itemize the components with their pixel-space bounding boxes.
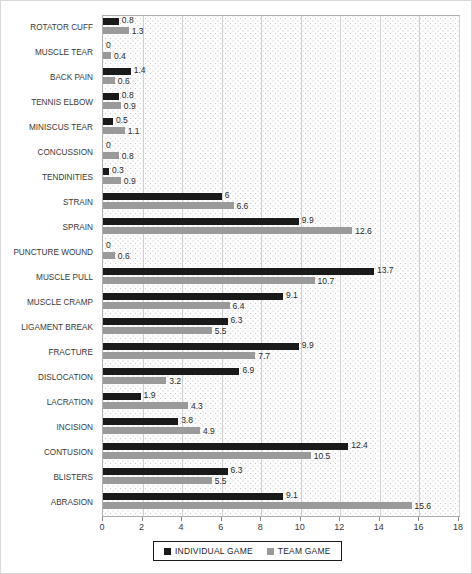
y-axis-label: CONCUSSION <box>1 148 93 157</box>
bar-value-label: 0 <box>106 41 111 50</box>
y-axis-label: SPRAIN <box>1 223 93 232</box>
bar-value-label: 3.8 <box>181 416 193 425</box>
bar-value-label: 6.6 <box>237 202 249 211</box>
y-axis-label: STRAIN <box>1 198 93 207</box>
legend-label: TEAM GAME <box>278 546 331 556</box>
bar-value-label: 0 <box>106 141 111 150</box>
y-axis-label: INCISION <box>1 423 93 432</box>
bar-individual-game <box>103 318 228 325</box>
bar-group: 0.81.3 <box>103 16 459 41</box>
x-axis-tick-mark <box>260 517 261 521</box>
bar-group: 6.93.2 <box>103 366 459 391</box>
bar-team-game <box>103 27 129 34</box>
bar-team-game <box>103 302 230 309</box>
x-axis-tick-label: 8 <box>258 522 263 532</box>
bar-individual-game <box>103 343 299 350</box>
x-axis-tick-mark <box>379 517 380 521</box>
bar-value-label: 12.4 <box>351 441 368 450</box>
bar-value-label: 5.5 <box>215 327 227 336</box>
bar-value-label: 7.7 <box>258 352 270 361</box>
bar-individual-game <box>103 393 141 400</box>
bar-group: 9.115.6 <box>103 491 459 516</box>
x-axis-tick-mark <box>221 517 222 521</box>
bar-individual-game <box>103 168 109 175</box>
bar-individual-game <box>103 493 283 500</box>
bar-value-label: 0.9 <box>124 177 136 186</box>
bar-individual-game <box>103 218 299 225</box>
bar-value-label: 6.4 <box>233 302 245 311</box>
chart-legend: INDIVIDUAL GAMETEAM GAME <box>153 541 342 561</box>
y-axis-label: MUSCLE TEAR <box>1 48 93 57</box>
plot-area: 0.81.300.41.40.60.80.90.51.100.80.30.966… <box>102 15 460 517</box>
bar-group: 00.8 <box>103 141 459 166</box>
chart-container: ROTATOR CUFFMUSCLE TEARBACK PAINTENNIS E… <box>0 0 472 574</box>
bar-value-label: 0.5 <box>116 116 128 125</box>
bar-group: 13.710.7 <box>103 266 459 291</box>
x-axis-tick-mark <box>418 517 419 521</box>
bar-team-game <box>103 77 115 84</box>
bar-value-label: 6.3 <box>231 466 243 475</box>
bar-team-game <box>103 152 119 159</box>
bar-value-label: 10.5 <box>314 452 331 461</box>
bar-team-game <box>103 377 166 384</box>
x-axis-tick-mark <box>339 517 340 521</box>
bar-value-label: 0.4 <box>114 52 126 61</box>
bar-value-label: 1.4 <box>134 66 146 75</box>
bar-value-label: 1.1 <box>128 127 140 136</box>
x-axis-tick-mark <box>142 517 143 521</box>
x-axis-tick-label: 18 <box>453 522 463 532</box>
y-axis-category-labels: ROTATOR CUFFMUSCLE TEARBACK PAINTENNIS E… <box>1 15 97 517</box>
legend-swatch-icon <box>267 548 274 555</box>
bar-team-game <box>103 227 352 234</box>
bar-value-label: 9.9 <box>302 216 314 225</box>
bar-group: 1.94.3 <box>103 391 459 416</box>
bar-group: 66.6 <box>103 191 459 216</box>
bar-value-label: 0.3 <box>112 166 124 175</box>
x-axis-tick-label: 14 <box>374 522 384 532</box>
y-axis-label: BACK PAIN <box>1 73 93 82</box>
bar-group: 0.30.9 <box>103 166 459 191</box>
grid-line <box>459 16 460 516</box>
bar-group: 9.97.7 <box>103 341 459 366</box>
y-axis-label: TENNIS ELBOW <box>1 98 93 107</box>
legend-item[interactable]: TEAM GAME <box>267 546 331 556</box>
bar-group: 3.84.9 <box>103 416 459 441</box>
bar-team-game <box>103 177 121 184</box>
bar-group: 0.80.9 <box>103 91 459 116</box>
bar-team-game <box>103 102 121 109</box>
bar-value-label: 0.8 <box>122 91 134 100</box>
legend-label: INDIVIDUAL GAME <box>175 546 253 556</box>
bar-team-game <box>103 402 188 409</box>
bar-team-game <box>103 452 311 459</box>
bar-value-label: 0 <box>106 241 111 250</box>
bar-individual-game <box>103 418 178 425</box>
bar-value-label: 6.3 <box>231 316 243 325</box>
bar-individual-game <box>103 68 131 75</box>
bar-individual-game <box>103 293 283 300</box>
x-axis-tick-mark <box>102 517 103 521</box>
bar-team-game <box>103 502 412 509</box>
bar-team-game <box>103 352 255 359</box>
legend-swatch-icon <box>164 548 171 555</box>
bar-value-label: 9.1 <box>286 291 298 300</box>
bar-team-game <box>103 127 125 134</box>
y-axis-label: BLISTERS <box>1 473 93 482</box>
bar-group: 9.16.4 <box>103 291 459 316</box>
bar-team-game <box>103 327 212 334</box>
x-axis-tick-mark <box>458 517 459 521</box>
legend-item[interactable]: INDIVIDUAL GAME <box>164 546 253 556</box>
bar-value-label: 4.9 <box>203 427 215 436</box>
bar-team-game <box>103 202 234 209</box>
bar-group: 00.4 <box>103 41 459 66</box>
bar-team-game <box>103 277 315 284</box>
bar-value-label: 1.3 <box>132 27 144 36</box>
x-axis: 024681012141618 <box>102 517 460 539</box>
y-axis-label: DISLOCATION <box>1 373 93 382</box>
bar-individual-game <box>103 93 119 100</box>
bar-group: 6.35.5 <box>103 316 459 341</box>
bar-group: 12.410.5 <box>103 441 459 466</box>
bar-team-game <box>103 427 200 434</box>
x-axis-tick-label: 6 <box>218 522 223 532</box>
bar-individual-game <box>103 443 348 450</box>
bar-value-label: 15.6 <box>415 502 432 511</box>
